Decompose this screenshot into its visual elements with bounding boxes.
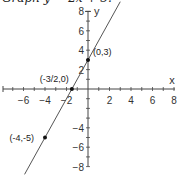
x-tick-label: 2 [107,95,113,106]
point-label: (-3/2,0) [40,74,69,84]
x-tick-label: −4 [39,95,51,106]
x-tick-label: 4 [128,95,134,106]
data-point [70,87,74,91]
y-tick-label: −4 [73,123,85,134]
y-tick-label: 8 [78,6,84,17]
y-tick-label: −6 [73,142,85,153]
y-tick-label: 6 [78,26,84,37]
y-axis-label: y [94,5,100,17]
point-label: (0,3) [93,47,112,57]
x-tick-label: −2 [61,95,73,106]
y-tick-label: −8 [73,162,85,173]
x-tick-label: 8 [171,95,177,106]
coordinate-plane: −6−4−224688642−4−6−8xy(0,3)(-3/2,0)(-4,-… [0,0,178,175]
point-label: (-4,-5) [10,133,35,143]
x-axis-label: x [169,74,175,86]
x-tick-label: −6 [18,95,30,106]
y-tick-label: 4 [78,45,84,56]
y-tick-label: 2 [78,65,84,76]
x-tick-label: 6 [150,95,156,106]
data-point [86,58,90,62]
data-point [43,136,47,140]
